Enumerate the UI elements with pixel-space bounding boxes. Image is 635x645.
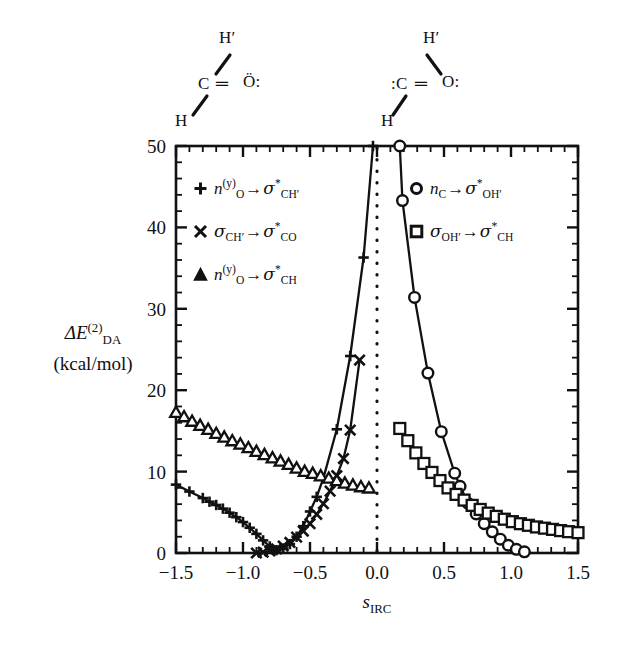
legend-donor: n — [214, 179, 223, 198]
structure-left-hydrogen: H — [175, 112, 187, 129]
x-tick-label: 0.5 — [416, 563, 472, 582]
x-tick-label: −1.5 — [148, 563, 204, 582]
legend-marker — [193, 267, 210, 284]
y-tick-label: 40 — [126, 218, 166, 237]
arrow-icon: → — [461, 222, 480, 241]
x-tick-label: −1.0 — [215, 563, 271, 582]
legend-label: σCH′→σ*CO — [214, 221, 297, 244]
arrow-icon: → — [244, 265, 263, 284]
structure-left-oxygen: Ö: — [243, 73, 260, 90]
structure-right-h-prime: H′ — [423, 29, 439, 46]
y-axis-title: ΔE(2)DA (kcal/mol) — [28, 320, 158, 376]
legend-entry-left-2: n(y)O→σ*CH — [193, 264, 297, 287]
legend-label: σOH′→σ*CH — [430, 221, 513, 244]
x-tick-label: 1.5 — [550, 563, 606, 582]
legend-entry-right-1: σOH′→σ*CH — [409, 221, 513, 244]
legend-acceptor: σ — [480, 221, 492, 241]
structure-left-double-bond: ═ — [216, 75, 228, 92]
arrow-icon: → — [446, 179, 465, 198]
y-axis-title-symbol: ΔE — [65, 322, 88, 343]
legend-marker — [193, 224, 210, 241]
legend-marker — [409, 224, 426, 241]
x-tick-label: 1.0 — [483, 563, 539, 582]
x-axis-title: sIRC — [347, 590, 407, 617]
cross-icon — [193, 224, 208, 239]
structure-left-h-prime: H′ — [219, 29, 235, 46]
legend-donor: σ — [214, 221, 226, 241]
plus-icon — [193, 181, 208, 196]
y-tick-label: 50 — [126, 137, 166, 156]
y-tick-label: 10 — [126, 463, 166, 482]
y-axis-title-superscript: (2) — [88, 320, 103, 335]
y-axis-units: (kcal/mol) — [28, 352, 158, 376]
x-axis-title-symbol: s — [363, 591, 370, 612]
series-0 — [171, 141, 378, 556]
legend-label: n(y)O→σ*CH — [214, 264, 297, 287]
triangle-icon — [193, 267, 208, 282]
square-icon — [409, 224, 424, 239]
legend-acceptor: σ — [263, 264, 275, 284]
legend-marker — [409, 181, 426, 198]
legend-acceptor: σ — [465, 178, 477, 198]
structure-right-carbon: :C — [391, 75, 407, 92]
arrow-icon: → — [244, 222, 263, 241]
y-tick-label: 0 — [126, 544, 166, 563]
data-series-layer — [170, 141, 583, 559]
legend-donor: n — [214, 265, 223, 284]
y-tick-label: 20 — [126, 381, 166, 400]
arrow-icon: → — [244, 179, 263, 198]
legend-entry-right-0: nC→σ*OH′ — [409, 178, 502, 201]
legend-label: nC→σ*OH′ — [430, 178, 502, 201]
legend-marker — [193, 181, 210, 198]
legend-entry-left-0: n(y)O→σ*CH′ — [193, 178, 299, 201]
structure-left-carbon: C — [198, 75, 210, 92]
structure-right-oxygen: O: — [442, 73, 459, 90]
legend-donor: n — [430, 179, 439, 198]
x-tick-label: 0.0 — [349, 563, 405, 582]
structure-right-double-bond: ═ — [415, 75, 427, 92]
y-tick-label: 30 — [126, 300, 166, 319]
legend-acceptor: σ — [263, 221, 275, 241]
legend-acceptor: σ — [263, 178, 275, 198]
legend-donor: σ — [430, 221, 442, 241]
structure-right-hydrogen: H — [381, 112, 393, 129]
legend-label: n(y)O→σ*CH′ — [214, 178, 299, 201]
legend-entry-left-1: σCH′→σ*CO — [193, 221, 297, 244]
chart-figure: H′ C ═ Ö: H H′ :C ═ O: H ΔE(2)DA (kcal/m… — [0, 0, 635, 645]
structure-left-bond-lower — [187, 93, 211, 119]
series-2 — [170, 407, 375, 493]
x-tick-label: −0.5 — [282, 563, 338, 582]
circle-icon — [409, 181, 424, 196]
x-axis-title-subscript: IRC — [370, 601, 392, 616]
y-axis-title-subscript: DA — [103, 332, 122, 347]
